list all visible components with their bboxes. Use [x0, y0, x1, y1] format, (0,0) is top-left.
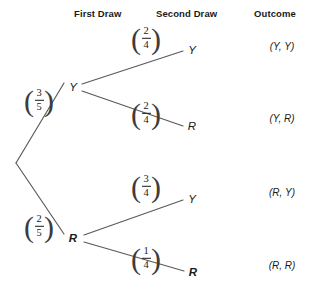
paren-right-icon: ): [44, 88, 54, 111]
node-second-draw-yy: Y: [188, 44, 196, 56]
probability-second-draw-yy: ( 2 4 ): [131, 26, 161, 50]
node-second-draw-rr: R: [189, 266, 197, 278]
paren-right-icon: ): [151, 246, 161, 269]
fraction-denominator: 5: [35, 101, 42, 112]
fraction-numerator: 3: [35, 88, 42, 99]
fraction-denominator: 5: [35, 227, 42, 238]
fraction-numerator: 2: [35, 214, 42, 225]
fraction-denominator: 4: [142, 259, 149, 270]
paren-right-icon: ): [151, 26, 161, 49]
outcome-yr: (Y, R): [269, 113, 294, 124]
fraction-numerator: 2: [142, 101, 149, 112]
fraction-numerator: 3: [142, 174, 149, 185]
paren-right-icon: ): [44, 214, 54, 237]
probability-tree-diagram: First Draw Second Draw Outcome Y R Y R Y…: [0, 0, 322, 299]
fraction-denominator: 4: [142, 114, 149, 125]
outcome-rr: (R, R): [269, 260, 296, 271]
paren-left-icon: (: [131, 101, 141, 124]
paren-left-icon: (: [131, 174, 141, 197]
node-second-draw-yr: R: [188, 120, 196, 132]
paren-left-icon: (: [24, 214, 34, 237]
probability-second-draw-rr: ( 1 4 ): [131, 246, 161, 270]
paren-left-icon: (: [131, 26, 141, 49]
outcome-ry: (R, Y): [269, 187, 295, 198]
outcome-yy: (Y, Y): [270, 41, 294, 52]
branch-y-to-yy: [82, 51, 183, 84]
branch-r-to-ry: [84, 200, 183, 235]
probability-second-draw-yr: ( 2 4 ): [131, 101, 161, 125]
paren-left-icon: (: [24, 88, 34, 111]
node-second-draw-ry: Y: [188, 193, 196, 205]
paren-right-icon: ): [151, 174, 161, 197]
node-first-draw-y: Y: [69, 81, 77, 93]
fraction-numerator: 1: [142, 246, 149, 257]
fraction-denominator: 4: [142, 187, 149, 198]
paren-left-icon: (: [131, 246, 141, 269]
probability-second-draw-ry: ( 3 4 ): [131, 174, 161, 198]
fraction-numerator: 2: [142, 26, 149, 37]
probability-first-draw-y: ( 3 5 ): [24, 88, 54, 112]
fraction-denominator: 4: [142, 39, 149, 50]
probability-first-draw-r: ( 2 5 ): [24, 214, 54, 238]
node-first-draw-r: R: [69, 232, 77, 244]
paren-right-icon: ): [151, 101, 161, 124]
